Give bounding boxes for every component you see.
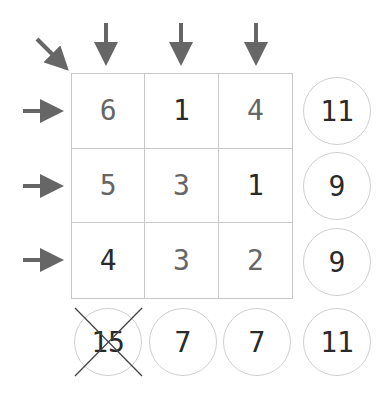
- grid-cell[interactable]: 2: [219, 223, 292, 298]
- grid-cell[interactable]: 5: [72, 149, 145, 224]
- corner-sum-circle: 11: [303, 308, 371, 376]
- row-sum-circle: 9: [303, 152, 371, 220]
- cross-out-icon: [74, 307, 144, 377]
- grid-cell[interactable]: 4: [219, 74, 292, 149]
- row-sum-circle: 9: [303, 228, 371, 296]
- grid-cell[interactable]: 4: [72, 223, 145, 298]
- grid-cell[interactable]: 1: [219, 149, 292, 224]
- number-grid: 6 1 4 5 3 1 4 3 2: [71, 73, 293, 299]
- grid-cell[interactable]: 1: [145, 74, 218, 149]
- column-sum-circle: 7: [149, 308, 217, 376]
- row-sum-circle: 11: [303, 77, 371, 145]
- diagonal-arrow-icon: [37, 39, 66, 68]
- grid-cell[interactable]: 3: [145, 149, 218, 224]
- grid-cell[interactable]: 6: [72, 74, 145, 149]
- column-sum-circle: 7: [223, 308, 291, 376]
- grid-cell[interactable]: 3: [145, 223, 218, 298]
